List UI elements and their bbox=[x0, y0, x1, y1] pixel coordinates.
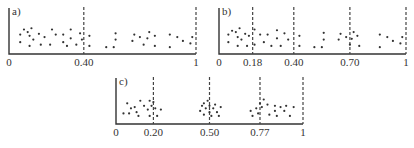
data-point bbox=[392, 40, 394, 42]
axis-lines bbox=[9, 8, 196, 54]
data-point bbox=[134, 106, 136, 108]
data-point bbox=[401, 36, 403, 38]
data-point bbox=[152, 101, 154, 103]
data-point bbox=[268, 114, 270, 116]
data-point bbox=[23, 28, 25, 30]
data-point bbox=[237, 36, 239, 38]
data-point bbox=[298, 45, 300, 47]
data-point bbox=[345, 36, 347, 38]
data-point bbox=[279, 106, 281, 108]
data-point bbox=[338, 39, 340, 41]
axis-lines bbox=[219, 8, 406, 54]
data-point bbox=[81, 39, 83, 41]
tick-label: 0 bbox=[6, 56, 12, 68]
data-point bbox=[32, 39, 34, 41]
data-point bbox=[210, 115, 212, 117]
tick-label: 0.40 bbox=[74, 56, 94, 68]
data-point bbox=[356, 35, 358, 37]
data-point bbox=[51, 28, 53, 30]
data-point bbox=[79, 32, 81, 34]
data-point bbox=[27, 31, 29, 33]
tick-label: 0.70 bbox=[340, 56, 360, 68]
data-point bbox=[128, 112, 130, 114]
data-point bbox=[38, 33, 40, 35]
data-point bbox=[40, 44, 42, 46]
data-point bbox=[216, 111, 218, 113]
data-point bbox=[259, 102, 261, 104]
data-point bbox=[131, 40, 133, 42]
tick-label: 1 bbox=[300, 126, 306, 138]
data-point bbox=[313, 46, 315, 48]
data-point bbox=[143, 105, 145, 107]
panel-label: b) bbox=[222, 5, 232, 18]
panel-label: c) bbox=[119, 75, 128, 88]
data-point bbox=[259, 33, 261, 35]
data-point bbox=[139, 36, 141, 38]
data-point bbox=[270, 45, 272, 47]
data-point bbox=[75, 44, 77, 46]
data-point bbox=[203, 114, 205, 116]
data-point bbox=[113, 46, 115, 48]
data-point bbox=[169, 46, 171, 48]
data-point bbox=[237, 45, 239, 47]
data-point bbox=[285, 105, 287, 107]
data-point bbox=[62, 33, 64, 35]
data-point bbox=[349, 44, 351, 46]
data-point bbox=[255, 107, 257, 109]
data-point bbox=[289, 115, 291, 117]
data-point bbox=[208, 111, 210, 113]
data-point bbox=[276, 29, 278, 31]
data-point bbox=[323, 32, 325, 34]
data-point bbox=[253, 28, 255, 30]
data-point bbox=[212, 107, 214, 109]
data-point bbox=[148, 31, 150, 33]
data-point bbox=[386, 36, 388, 38]
data-point bbox=[238, 27, 240, 29]
tick-label: 0.40 bbox=[284, 56, 304, 68]
data-point bbox=[149, 115, 151, 117]
data-point bbox=[154, 45, 156, 47]
data-point bbox=[146, 37, 148, 39]
data-point bbox=[135, 111, 137, 113]
data-point bbox=[182, 40, 184, 42]
data-point bbox=[287, 39, 289, 41]
data-point bbox=[43, 36, 45, 38]
data-point bbox=[160, 109, 162, 111]
data-point bbox=[244, 33, 246, 35]
data-point bbox=[207, 100, 209, 102]
tick-label: 0 bbox=[216, 56, 222, 68]
data-point bbox=[220, 106, 222, 108]
tick-label: 0.77 bbox=[250, 126, 270, 138]
data-point bbox=[293, 106, 295, 108]
data-point bbox=[274, 110, 276, 112]
data-point bbox=[251, 115, 253, 117]
data-point bbox=[276, 115, 278, 117]
data-point bbox=[298, 35, 300, 37]
tick-label: 1 bbox=[403, 56, 409, 68]
tick-label: 0.18 bbox=[243, 56, 263, 68]
data-point bbox=[263, 41, 265, 43]
data-point bbox=[154, 35, 156, 37]
data-point bbox=[263, 98, 265, 100]
data-point bbox=[19, 41, 21, 43]
segmentation-diagram: a)00.401b)00.180.400.701c)00.200.500.771 bbox=[0, 0, 414, 148]
data-point bbox=[379, 33, 381, 35]
data-point bbox=[323, 39, 325, 41]
data-point bbox=[214, 103, 216, 105]
data-point bbox=[70, 28, 72, 30]
data-point bbox=[139, 100, 141, 102]
data-point bbox=[231, 30, 233, 32]
data-point bbox=[351, 38, 353, 40]
data-point bbox=[240, 39, 242, 41]
data-point bbox=[66, 45, 68, 47]
data-point bbox=[218, 115, 220, 117]
data-point bbox=[379, 46, 381, 48]
data-point bbox=[114, 39, 116, 41]
data-point bbox=[55, 33, 57, 35]
data-point bbox=[199, 110, 201, 112]
data-point bbox=[266, 103, 268, 105]
data-point bbox=[169, 33, 171, 35]
data-point bbox=[208, 105, 210, 107]
data-point bbox=[156, 115, 158, 117]
data-point bbox=[274, 105, 276, 107]
